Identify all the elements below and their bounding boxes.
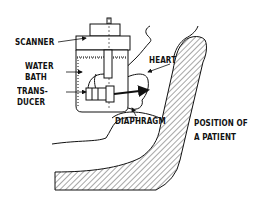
label-scanner: SCANNER [15, 37, 54, 47]
scanner-position-diagram: SCANNER WATER BATH TRANS- DUCER HEART DI… [0, 0, 254, 208]
label-water-bath-line2: BATH [25, 72, 47, 82]
label-transducer-line1: TRANS- [17, 86, 48, 96]
label-water-bath-line1: WATER [25, 61, 54, 71]
label-transducer-line2: DUCER [17, 97, 45, 107]
scanner-device [76, 18, 130, 112]
label-position-line2: A PATIENT [194, 132, 236, 142]
label-position-line1: POSITION OF [194, 118, 248, 128]
label-heart: HEART [149, 55, 176, 65]
label-diaphragm: DIAPHRAGM [115, 116, 166, 126]
